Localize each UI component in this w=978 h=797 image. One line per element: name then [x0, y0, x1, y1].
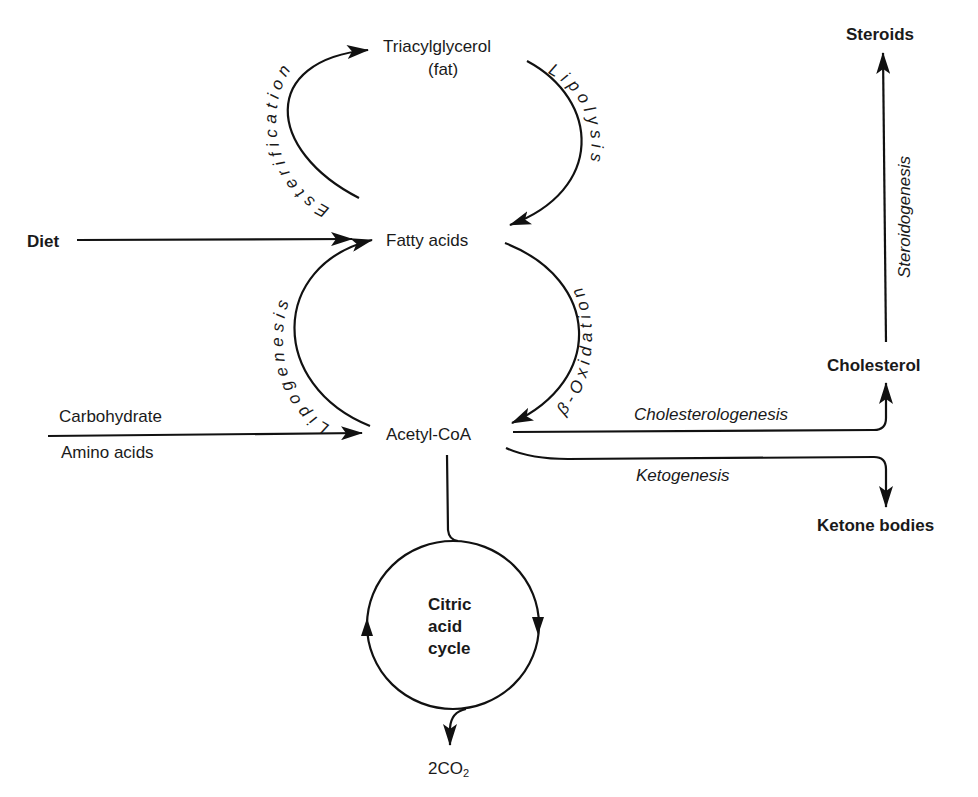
co2-label: 2CO2: [428, 759, 469, 779]
triacylglycerol-label: Triacylglycerol: [383, 37, 491, 56]
citric-label: Citric: [428, 595, 471, 614]
ketogenesis-label: Ketogenesis: [636, 466, 730, 485]
ketone-bodies-label: Ketone bodies: [817, 516, 934, 535]
beta-oxidation-label: β-Oxidation: [552, 280, 596, 419]
cycle-label: cycle: [428, 639, 471, 658]
fat-label: (fat): [428, 60, 458, 79]
diet-label: Diet: [27, 232, 59, 251]
co2-arrow: [450, 709, 466, 745]
acetyl-coa-label: Acetyl-CoA: [386, 425, 472, 444]
acetyl-to-cycle-line: [447, 455, 458, 541]
cycle-arrowhead-left: [361, 618, 373, 636]
carbohydrate-label: Carbohydrate: [59, 407, 162, 426]
cholesterologenesis-label: Cholesterologenesis: [634, 405, 789, 424]
lipogenesis-arrow: [294, 240, 372, 426]
steroids-label: Steroids: [846, 25, 914, 44]
steroidogenesis-arrow: [883, 53, 886, 342]
lipogenesis-label: Lipogenesis: [268, 293, 332, 438]
fatty-acids-label: Fatty acids: [386, 231, 468, 250]
amino-acids-label: Amino acids: [61, 443, 154, 462]
cholesterol-label: Cholesterol: [827, 356, 921, 375]
esterification-arrow: [288, 50, 368, 198]
diet-arrow: [77, 239, 352, 240]
acid-label: acid: [428, 617, 462, 636]
lipid-metabolism-diagram: Triacylglycerol (fat) Fatty acids Acetyl…: [0, 0, 978, 797]
steroidogenesis-label: Steroidogenesis: [895, 156, 914, 278]
cycle-arrowhead-right: [532, 617, 544, 635]
